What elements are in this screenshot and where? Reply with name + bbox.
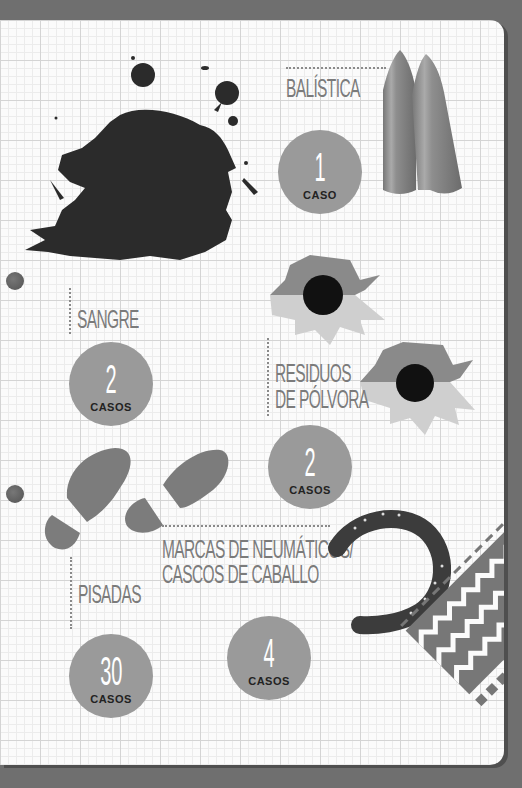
label-marcas-line2: CASCOS DE CABALLO (162, 563, 319, 586)
unit-marcas: CASOS (248, 675, 290, 687)
count-pisadas: 30 (100, 651, 122, 691)
bullet-hole-icon-2 (355, 320, 465, 430)
tread-square (279, 731, 292, 744)
tread-square (268, 742, 281, 755)
graph-paper-sheet: BALÍSTICA 1 CASO SANGRE 2 CASOS RESIDUOS… (0, 20, 504, 765)
tread-square (475, 694, 488, 707)
tread-square (332, 678, 345, 691)
tread-square (411, 757, 424, 765)
tread-square (481, 530, 494, 543)
tread-square (443, 725, 456, 738)
count-marcas: 4 (263, 633, 274, 673)
divider-residuos (267, 338, 269, 416)
tread-square (353, 657, 366, 670)
label-sangre: SANGRE (77, 308, 139, 331)
tread-square (459, 551, 472, 564)
badge-marcas: 4 CASOS (227, 616, 311, 700)
divider-sangre (69, 288, 71, 334)
bullet-hole-icon (260, 235, 370, 345)
divider-balistica (286, 67, 386, 69)
tread-square (486, 683, 499, 696)
label-pisadas: PISADAS (78, 583, 141, 606)
tread-square (454, 715, 467, 728)
tread-square (375, 636, 388, 649)
tread-square (464, 704, 477, 717)
tread-square (311, 699, 324, 712)
tread-square (428, 583, 441, 596)
label-residuos-line1: RESIDUOS (275, 362, 351, 385)
badge-balistica: 1 CASO (278, 130, 362, 214)
tread-square (364, 646, 377, 659)
tread-square (247, 763, 260, 765)
tread-square (300, 710, 313, 723)
tread-square (290, 720, 303, 733)
badge-pisadas: 30 CASOS (69, 634, 153, 718)
tread-square (258, 752, 271, 765)
tread-square (438, 572, 451, 585)
tread-square (433, 736, 446, 749)
tread-square (322, 689, 335, 702)
label-residuos-line2: DE PÓLVORA (275, 388, 368, 411)
badge-sangre: 2 CASOS (69, 342, 153, 426)
count-balistica: 1 (314, 147, 325, 187)
tread-square (496, 672, 504, 685)
tread-square (470, 540, 483, 553)
tread-square (417, 593, 430, 606)
tread-square (491, 519, 504, 532)
blood-splatter-icon (0, 20, 300, 280)
unit-balistica: CASO (303, 189, 337, 201)
tread-square (385, 625, 398, 638)
divider-pisadas (70, 557, 72, 629)
tread-square (343, 667, 356, 680)
tire-track-icon (300, 460, 504, 765)
bullets-icon (380, 50, 460, 220)
tread-square (422, 747, 435, 760)
count-sangre: 2 (105, 359, 116, 399)
binder-hole-bottom (6, 485, 24, 503)
tread-square (502, 508, 504, 521)
tread-square (396, 614, 409, 627)
tread-square (449, 561, 462, 574)
unit-sangre: CASOS (90, 401, 132, 413)
unit-pisadas: CASOS (90, 693, 132, 705)
label-balistica: BALÍSTICA (286, 77, 360, 100)
tread-square (406, 604, 419, 617)
